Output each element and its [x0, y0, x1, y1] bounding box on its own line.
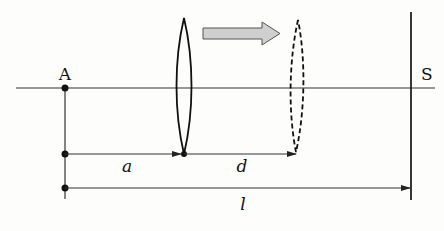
- dimension-l-label: l: [240, 194, 245, 214]
- dimension-a-label: a: [122, 156, 132, 176]
- optics-diagram: A S a d l: [0, 0, 444, 231]
- screen-S-label: S: [421, 64, 433, 84]
- lens-initial: [177, 18, 192, 154]
- point-A-label: A: [58, 64, 72, 84]
- motion-arrow-icon: [203, 22, 280, 45]
- lens-final-dashed: [291, 20, 304, 152]
- point-A-dot: [62, 85, 69, 92]
- dimension-d-label: d: [237, 156, 248, 176]
